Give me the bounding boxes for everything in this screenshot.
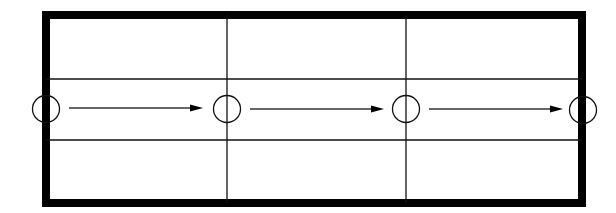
arrow-head-icon (190, 105, 203, 112)
arrow-icon-1 (69, 105, 203, 112)
arrow-icon-3 (429, 106, 563, 113)
arrow-head-icon (371, 106, 384, 113)
flow-arrows (69, 105, 563, 113)
arrow-icon-2 (250, 106, 384, 113)
arrow-head-icon (550, 106, 563, 113)
flow-diagram (0, 0, 616, 213)
